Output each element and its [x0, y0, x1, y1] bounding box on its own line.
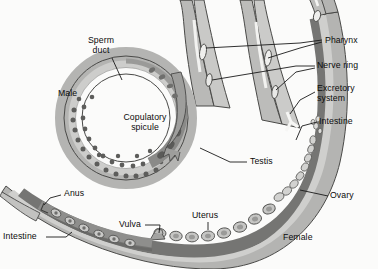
label-intestine-right: Intestine	[319, 117, 353, 127]
nematode-anatomy-figure: Sperm duct Male Copulatory spicule Phary…	[0, 0, 378, 269]
label-sperm-duct: Sperm duct	[78, 36, 124, 55]
label-ovary: Ovary	[330, 191, 354, 201]
label-intestine-left: Intestine	[3, 232, 37, 242]
label-female: Female	[283, 233, 313, 243]
label-vulva: Vulva	[119, 220, 141, 230]
label-excretory-system: Excretory system	[317, 84, 355, 103]
label-testis: Testis	[250, 157, 273, 167]
female-head-detail	[231, 0, 300, 131]
label-uterus: Uterus	[192, 211, 218, 221]
label-copulatory-spicule: Copulatory spicule	[112, 113, 178, 132]
label-nerve-ring: Nerve ring	[317, 61, 358, 71]
diagram-artwork	[0, 0, 378, 269]
label-pharynx: Pharynx	[325, 36, 358, 46]
label-male: Male	[58, 89, 77, 99]
label-anus: Anus	[64, 189, 84, 199]
